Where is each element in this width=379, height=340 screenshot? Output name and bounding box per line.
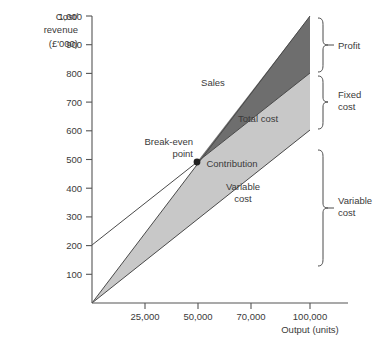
y-tick-700: 700 xyxy=(66,97,82,108)
total-cost-line xyxy=(92,73,310,245)
breakeven-label-line1: Break-even xyxy=(144,136,193,147)
y-tick-400: 400 xyxy=(66,183,82,194)
x-axis-title: Output (units) xyxy=(281,324,339,335)
y-tick-labels: 1,000 900 800 700 600 500 400 300 200 10… xyxy=(58,11,82,280)
fixed-cost-bracket xyxy=(318,76,328,129)
variable-cost-bracket xyxy=(318,150,328,266)
y-tick-800: 800 xyxy=(66,68,82,79)
y-tick-100: 100 xyxy=(66,269,82,280)
y-axis-title-line2: revenue xyxy=(44,24,78,35)
x-tick-100000: 100,000 xyxy=(293,311,327,322)
right-brackets: Profit Fixed cost Variable cost xyxy=(318,18,372,266)
total-cost-label: Total cost xyxy=(238,113,278,124)
y-tick-500: 500 xyxy=(66,154,82,165)
x-tick-70000: 70,000 xyxy=(236,311,265,322)
profit-bracket-label: Profit xyxy=(338,40,361,51)
x-tick-25000: 25,000 xyxy=(130,311,159,322)
y-tick-600: 600 xyxy=(66,125,82,136)
breakeven-point-marker xyxy=(194,159,201,166)
fixed-cost-bracket-label-line2: cost xyxy=(338,101,356,112)
breakeven-label-line2: point xyxy=(172,148,193,159)
breakeven-annotation: Break-even point xyxy=(144,136,200,165)
break-even-chart: 1,000 900 800 700 600 500 400 300 200 10… xyxy=(0,0,379,340)
x-tick-labels: 25,000 50,000 70,000 100,000 xyxy=(130,311,327,322)
chart-canvas: 1,000 900 800 700 600 500 400 300 200 10… xyxy=(0,0,379,340)
fixed-cost-bracket-label-line1: Fixed xyxy=(338,89,361,100)
sales-label: Sales xyxy=(201,77,225,88)
y-axis-title-line3: (£'000) xyxy=(49,38,78,49)
variable-cost-bracket-label-line1: Variable xyxy=(338,195,372,206)
y-tick-marks xyxy=(86,16,92,274)
y-axis-title-line1: Cost/ xyxy=(56,11,79,22)
variable-cost-inplot-label-line2: cost xyxy=(234,193,252,204)
variable-cost-inplot-label-line1: Variable xyxy=(226,181,260,192)
x-tick-marks xyxy=(145,303,310,309)
y-tick-300: 300 xyxy=(66,211,82,222)
variable-cost-line xyxy=(92,130,310,303)
series-lines xyxy=(92,16,310,303)
x-tick-50000: 50,000 xyxy=(183,311,212,322)
variable-cost-bracket-label-line2: cost xyxy=(338,207,356,218)
y-tick-200: 200 xyxy=(66,240,82,251)
profit-bracket xyxy=(318,18,328,72)
contribution-label: Contribution xyxy=(206,158,257,169)
